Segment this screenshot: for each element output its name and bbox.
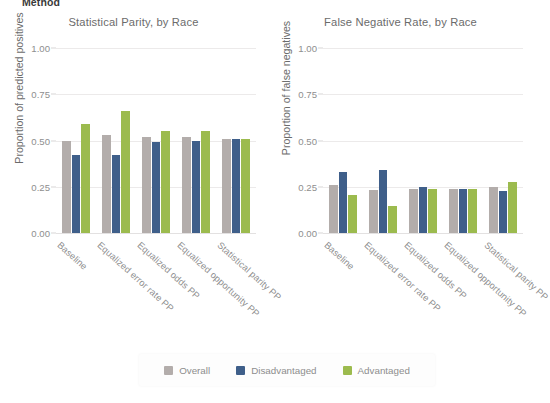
bar-groups <box>323 48 523 233</box>
bar[interactable] <box>161 131 170 233</box>
bar[interactable] <box>329 185 338 233</box>
bar-group <box>483 48 523 233</box>
bar[interactable] <box>152 142 161 233</box>
legend-label: Disadvantaged <box>251 365 316 376</box>
bar-group <box>443 48 483 233</box>
legend: OverallDisadvantagedAdvantaged <box>139 354 435 386</box>
x-tick-label: Equalized error rate PP <box>95 240 175 314</box>
bar-group <box>136 48 176 233</box>
x-tick-label: Baseline <box>55 240 89 272</box>
x-tick-label: Baseline <box>322 240 356 272</box>
legend-item[interactable]: Disadvantaged <box>236 365 316 376</box>
bar[interactable] <box>81 124 90 233</box>
bar[interactable] <box>192 141 201 234</box>
bar[interactable] <box>499 191 508 233</box>
legend-item[interactable]: Overall <box>164 365 210 376</box>
bar[interactable] <box>112 155 121 233</box>
legend-label: Advantaged <box>358 365 410 376</box>
y-tick-label: 0.75 <box>31 89 50 100</box>
chart-panel-statistical-parity: Statistical Parity, by Race Proportion o… <box>0 12 267 342</box>
bar[interactable] <box>102 135 111 233</box>
y-tick-label: 0.50 <box>31 135 50 146</box>
y-axis-label: Proportion of predicted positives <box>13 0 25 183</box>
chart-title: False Negative Rate, by Race <box>267 16 534 28</box>
bar[interactable] <box>388 206 397 233</box>
x-tick-label: Equalized opportunity PP <box>442 240 528 319</box>
y-tick-label: 0.75 <box>298 89 317 100</box>
plot-area: 0.000.250.500.751.00 <box>56 48 256 233</box>
method-heading: Method <box>22 0 60 8</box>
charts-row: Statistical Parity, by Race Proportion o… <box>0 12 534 342</box>
chart-panel-false-negative-rate: False Negative Rate, by Race Proportion … <box>267 12 534 342</box>
y-tick-label: 0.00 <box>31 228 50 239</box>
plot-area: 0.000.250.500.751.00 <box>323 48 523 233</box>
bar[interactable] <box>508 182 517 233</box>
bar[interactable] <box>62 141 71 234</box>
y-tick-label: 0.00 <box>298 228 317 239</box>
x-tick-label: Equalized error rate PP <box>362 240 442 314</box>
y-tick-label: 1.00 <box>298 43 317 54</box>
y-axis-label: Proportion of false negatives <box>280 0 292 183</box>
bar[interactable] <box>121 111 130 233</box>
legend-swatch <box>236 366 245 375</box>
bar[interactable] <box>409 189 418 233</box>
bar[interactable] <box>419 187 428 233</box>
bar[interactable] <box>489 187 498 233</box>
bar[interactable] <box>72 155 81 233</box>
x-axis-labels: BaselineEqualized error rate PPEqualized… <box>323 236 523 341</box>
bar[interactable] <box>428 189 437 233</box>
chart-title: Statistical Parity, by Race <box>0 16 267 28</box>
bar[interactable] <box>339 172 348 233</box>
gridline <box>323 233 523 234</box>
y-tick-label: 0.25 <box>298 181 317 192</box>
bar[interactable] <box>369 190 378 233</box>
bar[interactable] <box>468 189 477 233</box>
bar[interactable] <box>348 195 357 233</box>
legend-label: Overall <box>179 365 210 376</box>
bar[interactable] <box>232 139 241 233</box>
bar[interactable] <box>449 189 458 233</box>
bar[interactable] <box>182 137 191 233</box>
bar-group <box>363 48 403 233</box>
bar-group <box>176 48 216 233</box>
gridline <box>56 233 256 234</box>
bar-group <box>96 48 136 233</box>
bar-group <box>403 48 443 233</box>
legend-swatch <box>164 366 173 375</box>
bar-group <box>216 48 256 233</box>
bar[interactable] <box>379 170 388 233</box>
legend-item[interactable]: Advantaged <box>343 365 410 376</box>
bar-group <box>323 48 363 233</box>
x-axis-labels: BaselineEqualized error rate PPEqualized… <box>56 236 256 341</box>
y-tick-label: 0.25 <box>31 181 50 192</box>
x-tick-label: Equalized opportunity PP <box>175 240 261 319</box>
legend-swatch <box>343 366 352 375</box>
bar[interactable] <box>142 137 151 233</box>
y-tick-label: 1.00 <box>31 43 50 54</box>
bar[interactable] <box>459 189 468 233</box>
bar[interactable] <box>222 139 231 233</box>
bar[interactable] <box>241 139 250 233</box>
bar-groups <box>56 48 256 233</box>
y-tick-label: 0.50 <box>298 135 317 146</box>
bar[interactable] <box>201 131 210 233</box>
bar-group <box>56 48 96 233</box>
